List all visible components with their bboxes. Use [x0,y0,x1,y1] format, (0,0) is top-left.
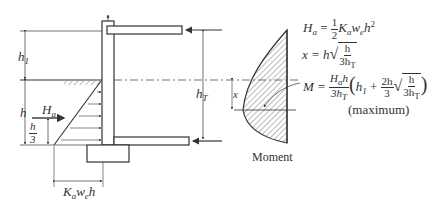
eq3-plus: + [367,79,381,94]
eq2-den-sub: T [350,60,356,70]
moment-diagram [234,30,300,143]
eq3-paren-close: ) [421,73,428,95]
eq3-num-h: h [343,72,349,84]
label-hT: hT [196,87,208,103]
bottom-strut [114,137,222,145]
label-base-width: Kaweh [63,185,95,201]
h3-num: h [29,121,37,134]
eq3-num: H [330,72,338,84]
braced-wall-diagram: h1 h Ha h3 hT x Kaweh Moment Ha = 12Kawe… [0,0,435,203]
soil-hatch [64,81,100,85]
eq1-pow: 2 [371,19,376,29]
eq3-den: 3h [331,87,342,99]
h1-sub: 1 [25,56,30,66]
eq1-lhs: H [303,20,312,35]
eq3-r-den-sub: T [414,91,420,101]
dimensions [25,32,232,187]
bw-h: h [89,184,96,199]
h3-den: 3 [30,134,36,146]
eq3-paren-open: ( [349,73,356,95]
moment-caption: Moment [252,150,293,165]
eq2-lhs: x = h [302,47,330,62]
label-Ha: Ha [42,103,56,119]
eq1-K: K [338,20,347,35]
eq3-lhs: M = [303,79,329,94]
eq3-r-den: 3h [403,86,414,98]
equation-M: M = Hah3hT(h1 + 2h3√h3hT) [303,73,428,103]
eq1-den: 2 [332,30,338,42]
equation-Ha: Ha = 12Kaweh2 [303,17,375,41]
hT-sub: T [203,93,208,103]
footing [87,145,129,162]
Ha-text: H [42,102,51,117]
eq1-w: w [351,20,360,35]
equation-x: x = h√h3hT [302,42,357,70]
bw-K: K [63,184,72,199]
eq2-den: 3h [339,55,350,67]
maximum-note: (maximum) [348,103,409,116]
Ha-sub: a [51,109,56,119]
label-h1: h1 [18,50,29,66]
label-h-over-3: h3 [29,121,37,145]
eq3-den-sub: T [342,92,347,102]
eq3-f2-den: 3 [384,88,390,100]
label-x: x [233,89,238,100]
bw-w: w [76,184,85,199]
top-strut [107,26,222,34]
eq1-eq: = [317,20,331,35]
label-h: h [20,106,27,119]
